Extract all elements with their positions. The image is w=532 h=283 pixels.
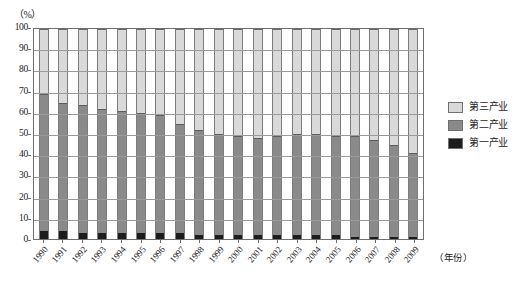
bar-slot (34, 29, 53, 239)
stacked-bar[interactable] (136, 29, 146, 239)
bar-slot (267, 29, 286, 239)
x-axis-tick-label: 1992 (70, 245, 88, 265)
x-axis-tick-mark (180, 240, 181, 243)
bar-slot (92, 29, 111, 239)
bar-segment-primary-industry (390, 237, 398, 239)
y-axis-tick-mark (28, 113, 31, 114)
bar-segment-primary-industry (409, 237, 417, 239)
stacked-bar[interactable] (389, 29, 399, 239)
y-axis-tick-mark (28, 49, 31, 50)
stacked-bar[interactable] (311, 29, 321, 239)
stacked-bar-chart: （%） 0102030405060708090100 1990199119921… (0, 0, 532, 283)
bar-segment-primary-industry (79, 233, 87, 239)
stacked-bar[interactable] (292, 29, 302, 239)
bar-segment-primary-industry (195, 235, 203, 239)
stacked-bar[interactable] (155, 29, 165, 239)
legend-item-label: 第二产业 (469, 120, 508, 130)
stacked-bar[interactable] (58, 29, 68, 239)
bar-segment-primary-industry (351, 237, 359, 239)
bar-slot (151, 29, 170, 239)
y-axis-tick-mark (28, 28, 31, 29)
legend-item-label: 第三产业 (469, 102, 508, 112)
bar-segment-tertiary-industry (409, 29, 417, 153)
stacked-bar[interactable] (369, 29, 379, 239)
bar-segment-tertiary-industry (156, 29, 164, 115)
legend-item[interactable]: 第一产业 (448, 134, 532, 152)
x-axis-tick-mark (277, 240, 278, 243)
stacked-bar[interactable] (331, 29, 341, 239)
x-axis-tick-label: 1996 (148, 245, 166, 265)
bar-segment-secondary-industry (98, 109, 106, 233)
legend-item[interactable]: 第三产业 (448, 98, 532, 116)
y-axis-tick-mark (28, 176, 31, 177)
x-axis-tick-label: 2003 (285, 245, 303, 265)
bar-segment-secondary-industry (370, 140, 378, 237)
stacked-bar[interactable] (78, 29, 88, 239)
y-axis-tick-label: 70 (19, 87, 28, 97)
bar-segment-tertiary-industry (390, 29, 398, 145)
bar-segment-tertiary-industry (273, 29, 281, 136)
y-axis-tick-label: 20 (19, 193, 28, 203)
bar-segment-tertiary-industry (137, 29, 145, 113)
bar-segment-secondary-industry (312, 134, 320, 235)
bar-segment-secondary-industry (176, 124, 184, 233)
bar-slot (209, 29, 228, 239)
bar-segment-primary-industry (40, 231, 48, 239)
x-axis-tick-mark (258, 240, 259, 243)
bar-segment-secondary-industry (332, 136, 340, 235)
x-axis-tick-label: 2002 (266, 245, 284, 265)
bar-segment-secondary-industry (351, 136, 359, 237)
x-axis-tick-label: 2000 (227, 245, 245, 265)
stacked-bar[interactable] (175, 29, 185, 239)
stacked-bar[interactable] (39, 29, 49, 239)
bar-segment-secondary-industry (254, 138, 262, 235)
bar-segment-primary-industry (332, 235, 340, 239)
x-axis-tick-mark (356, 240, 357, 243)
bar-segment-tertiary-industry (215, 29, 223, 134)
x-axis-tick-label: 1991 (51, 245, 69, 265)
y-axis-tick-label: 90 (19, 44, 28, 54)
bar-segment-primary-industry (98, 233, 106, 239)
legend-item[interactable]: 第二产业 (448, 116, 532, 134)
x-axis-tick-label: 2007 (364, 245, 382, 265)
x-axis-tick-mark (121, 240, 122, 243)
bar-segment-primary-industry (215, 235, 223, 239)
bar-segment-tertiary-industry (254, 29, 262, 138)
bar-segment-secondary-industry (156, 115, 164, 233)
x-axis-tick-mark (316, 240, 317, 243)
x-axis-tick-mark (297, 240, 298, 243)
x-axis-tick-mark (199, 240, 200, 243)
y-axis-tick-label: 80 (19, 66, 28, 76)
bar-segment-tertiary-industry (351, 29, 359, 136)
bar-segment-primary-industry (156, 233, 164, 239)
x-axis-tick-labels: 1990199119921993199419951996199719981999… (33, 240, 424, 283)
bar-segment-secondary-industry (79, 105, 87, 233)
x-axis-tick-label: 1998 (188, 245, 206, 265)
x-axis-tick-mark (336, 240, 337, 243)
stacked-bar[interactable] (117, 29, 127, 239)
bar-slot (73, 29, 92, 239)
stacked-bar[interactable] (214, 29, 224, 239)
stacked-bar[interactable] (233, 29, 243, 239)
x-axis-unit-label: （年份） (434, 250, 472, 264)
bar-segment-primary-industry (118, 233, 126, 239)
bar-segment-tertiary-industry (234, 29, 242, 136)
x-axis-tick-mark (82, 240, 83, 243)
y-axis-tick-mark (28, 219, 31, 220)
x-axis-tick-mark (375, 240, 376, 243)
stacked-bar[interactable] (272, 29, 282, 239)
stacked-bar[interactable] (408, 29, 418, 239)
stacked-bar[interactable] (253, 29, 263, 239)
chart-legend: 第三产业第二产业第一产业 (448, 98, 532, 152)
bar-segment-secondary-industry (273, 136, 281, 235)
y-axis-tick-mark (28, 155, 31, 156)
stacked-bar[interactable] (350, 29, 360, 239)
legend-color-swatch (448, 102, 463, 113)
stacked-bar[interactable] (194, 29, 204, 239)
x-axis-tick-label: 2004 (305, 245, 323, 265)
stacked-bar[interactable] (97, 29, 107, 239)
bar-segment-secondary-industry (293, 134, 301, 235)
x-axis-tick-label: 2001 (246, 245, 264, 265)
bar-segment-tertiary-industry (59, 29, 67, 103)
x-axis-tick-label: 1997 (168, 245, 186, 265)
